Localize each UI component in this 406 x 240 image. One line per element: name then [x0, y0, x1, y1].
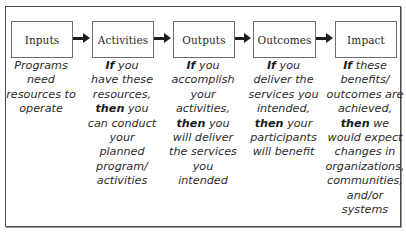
description-line: program/ [83, 160, 161, 174]
stage-label-impact: Impact [347, 34, 385, 46]
description-text: the services [169, 145, 237, 158]
description-line: would expect [325, 131, 405, 145]
description-text: you [124, 102, 148, 115]
emphasis-text: then [255, 117, 284, 130]
description-line: planned [83, 145, 161, 159]
description-line: resources, [83, 88, 161, 102]
description-text: changes in [335, 145, 396, 158]
description-line: communities, [325, 174, 405, 188]
description-line: need [4, 73, 78, 87]
description-line: then you [164, 117, 242, 131]
arrow-right-icon [154, 37, 168, 40]
description-text: your [190, 88, 215, 101]
description-text: can conduct [88, 117, 156, 130]
stage-box-impact: Impact [335, 21, 397, 58]
description-text: Programs [14, 59, 67, 72]
description-line: If you [83, 59, 161, 73]
description-line: achieved, [325, 102, 405, 116]
description-line: organizations, [325, 160, 405, 174]
stage-label-outcomes: Outcomes [257, 34, 311, 46]
description-text: your [109, 131, 134, 144]
description-line: outcomes are [325, 88, 405, 102]
description-text: these [352, 59, 387, 72]
description-text: participants [250, 131, 317, 144]
description-text: resources, [93, 88, 151, 101]
description-text: program/ [96, 160, 148, 173]
stage-description-activities: If youhave theseresources,then youcan co… [83, 59, 161, 189]
description-line: systems [325, 203, 405, 217]
description-text: deliver the [253, 73, 313, 86]
emphasis-text: then [177, 117, 206, 130]
description-line: participants [243, 131, 324, 145]
description-text: services you [248, 88, 318, 101]
description-line: accomplish [164, 73, 242, 87]
description-text: activities [97, 174, 147, 187]
description-line: intended [164, 174, 242, 188]
description-text: you [195, 59, 219, 72]
description-text: benefits/ [340, 73, 389, 86]
description-text: achieved, [338, 102, 392, 115]
emphasis-text: then [341, 117, 370, 130]
description-line: your [83, 131, 161, 145]
description-text: accomplish [171, 73, 234, 86]
description-line: If you [164, 59, 242, 73]
description-line: deliver the [243, 73, 324, 87]
description-text: and/or [347, 189, 383, 202]
description-line: changes in [325, 145, 405, 159]
description-line: Programs [4, 59, 78, 73]
description-line: then we [325, 117, 405, 131]
description-line: the services [164, 145, 242, 159]
description-text: we [370, 117, 390, 130]
arrow-right-icon [73, 37, 87, 40]
description-text: you [114, 59, 138, 72]
stage-label-inputs: Inputs [25, 34, 60, 46]
description-text: you [193, 160, 214, 173]
description-text: you [276, 59, 300, 72]
description-text: intended, [257, 102, 310, 115]
stage-label-outputs: Outputs [182, 34, 225, 46]
description-line: you [164, 160, 242, 174]
description-text: systems [342, 203, 388, 216]
description-line: then your [243, 117, 324, 131]
stage-description-outcomes: If youdeliver theservices youintended,th… [243, 59, 324, 160]
description-text: planned [99, 145, 144, 158]
description-line: If you [243, 59, 324, 73]
stage-description-impact: If thesebenefits/outcomes areachieved,th… [325, 59, 405, 217]
description-text: will deliver [173, 131, 233, 144]
stage-box-inputs: Inputs [11, 21, 73, 58]
description-line: benefits/ [325, 73, 405, 87]
stage-description-outputs: If youaccomplishyouractivities,then youw… [164, 59, 242, 189]
description-line: activities [83, 174, 161, 188]
stage-box-outputs: Outputs [173, 21, 235, 58]
description-text: you [205, 117, 229, 130]
emphasis-text: If [343, 59, 352, 72]
description-line: and/or [325, 189, 405, 203]
description-text: intended [178, 174, 228, 187]
arrow-right-icon [235, 37, 248, 40]
description-line: your [164, 88, 242, 102]
description-line: If these [325, 59, 405, 73]
description-text: need [27, 73, 55, 86]
emphasis-text: If [267, 59, 276, 72]
description-text: resources to [6, 88, 76, 101]
description-text: activities, [176, 102, 230, 115]
description-line: operate [4, 102, 78, 116]
arrow-right-icon [316, 37, 330, 40]
description-line: have these [83, 73, 161, 87]
stage-box-activities: Activities [92, 21, 154, 58]
description-line: then you [83, 102, 161, 116]
description-text: operate [19, 102, 63, 115]
description-line: will benefit [243, 145, 324, 159]
description-line: resources to [4, 88, 78, 102]
description-text: organizations, [325, 160, 404, 173]
description-text: outcomes are [327, 88, 404, 101]
description-text: communities, [327, 174, 403, 187]
description-text: would expect [328, 131, 403, 144]
description-text: your [284, 117, 313, 130]
description-line: intended, [243, 102, 324, 116]
description-line: can conduct [83, 117, 161, 131]
stage-label-activities: Activities [98, 34, 149, 46]
description-line: will deliver [164, 131, 242, 145]
description-text: have these [91, 73, 153, 86]
stage-description-inputs: Programsneedresources tooperate [4, 59, 78, 117]
